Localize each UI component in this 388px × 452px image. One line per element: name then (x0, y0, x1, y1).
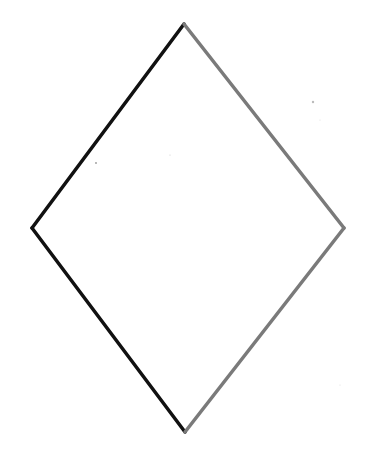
speck (319, 119, 320, 120)
speck (95, 162, 97, 164)
speck (312, 101, 314, 103)
speck (339, 384, 340, 385)
speck (169, 154, 170, 155)
rhombus-diagram (0, 0, 388, 452)
diagram-canvas (0, 0, 388, 452)
rhombus-fill (32, 24, 344, 432)
